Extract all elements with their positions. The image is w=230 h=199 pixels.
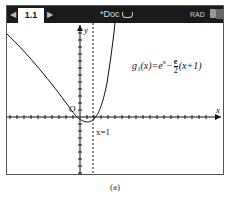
function-label[interactable]: g₁(x)=ex−e2(x+1)	[132, 58, 201, 75]
function-eq: =e	[152, 60, 163, 71]
fraction: e2	[174, 58, 178, 75]
figure-caption: (a)	[0, 182, 230, 192]
document-title-text: *Doc	[100, 9, 120, 19]
close-icon[interactable]	[216, 9, 224, 19]
graph-canvas	[7, 23, 223, 175]
y-axis-arrow-icon	[77, 25, 83, 31]
function-name: g₁(x)	[132, 60, 152, 71]
fraction-denominator: 2	[174, 67, 178, 75]
function-tail: (x+1)	[179, 60, 202, 71]
origin-label: O	[69, 104, 76, 114]
y-axis-label: y	[84, 25, 88, 35]
dropdown-caret-icon	[122, 12, 133, 18]
graph-area[interactable]: g₁(x)=ex−e2(x+1) O x y x=1	[7, 23, 223, 175]
x-axis-label: x	[216, 105, 220, 115]
calculator-screen: ◀ 1.1 ▶ *Doc RAD	[6, 5, 224, 175]
prev-page-arrow-icon[interactable]: ◀	[10, 10, 16, 19]
minus-sign: −	[166, 60, 173, 71]
angle-mode-indicator: RAD	[190, 10, 205, 19]
document-title[interactable]: *Doc	[100, 9, 133, 20]
y-axis-ticks	[78, 33, 82, 173]
function-curve	[7, 23, 115, 122]
asymptote-label: x=1	[96, 127, 110, 137]
top-bar: ◀ 1.1 ▶ *Doc RAD	[7, 6, 223, 23]
page-tab[interactable]: 1.1	[18, 8, 44, 23]
next-page-arrow-icon[interactable]: ▶	[47, 10, 53, 19]
